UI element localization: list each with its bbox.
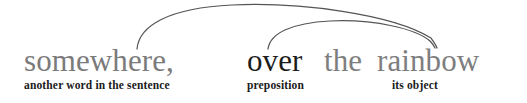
word-the: the (324, 44, 362, 78)
label-another-word-in-the-sentence: another word in the sentence (24, 79, 170, 92)
label-its-object: its object (392, 79, 438, 92)
word-over-preposition: over (247, 44, 302, 78)
word-somewhere: somewhere, (24, 44, 174, 78)
sentence-line: somewhere, over the rainbow (0, 44, 527, 78)
grammar-diagram: somewhere, over the rainbow another word… (0, 0, 527, 103)
word-rainbow-object: rainbow (377, 44, 479, 78)
label-preposition: preposition (247, 79, 304, 92)
